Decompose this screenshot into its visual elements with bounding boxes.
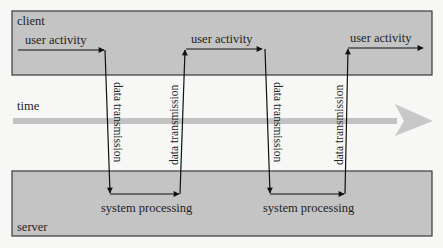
system-processing-label: system processing — [101, 201, 193, 215]
time-label: time — [17, 99, 40, 113]
user-activity-label: user activity — [350, 31, 412, 45]
time-arrow-head — [395, 104, 433, 136]
user-activity-label: user activity — [25, 33, 87, 47]
transmission-label: data transmission — [272, 82, 284, 162]
client-server-timing-diagram: client server time user activity user ac… — [0, 0, 443, 248]
system-processing-label: system processing — [263, 201, 355, 215]
transmission-label: data transmission — [333, 85, 345, 165]
server-box — [12, 171, 432, 236]
server-label: server — [17, 220, 48, 234]
transmission-label: data transmission — [168, 85, 180, 165]
transmission-label: data transmission — [112, 82, 124, 162]
user-activity-label: user activity — [191, 32, 253, 46]
server-lane: server — [12, 171, 432, 236]
time-arrow: time — [13, 99, 433, 136]
client-label: client — [17, 14, 45, 28]
